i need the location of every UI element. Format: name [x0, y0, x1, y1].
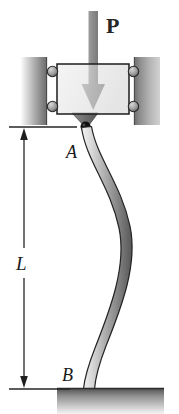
point-b-label: B: [62, 365, 73, 385]
roller-top-right: [128, 66, 138, 76]
point-a-label: A: [65, 142, 78, 162]
roller-bottom-left: [47, 101, 57, 111]
figure-canvas: P A L B: [0, 0, 179, 414]
length-label: L: [15, 253, 27, 274]
right-guide-wall: [134, 57, 160, 125]
buckled-column: [82, 127, 133, 390]
left-guide-wall: [21, 57, 47, 125]
roller-top-left: [47, 66, 57, 76]
roller-bottom-right: [128, 101, 138, 111]
load-label: P: [106, 13, 119, 38]
fixed-base-plate: [57, 388, 164, 414]
buckling-column-figure: P A L B: [0, 0, 179, 414]
roller-guided-block: [57, 64, 129, 114]
